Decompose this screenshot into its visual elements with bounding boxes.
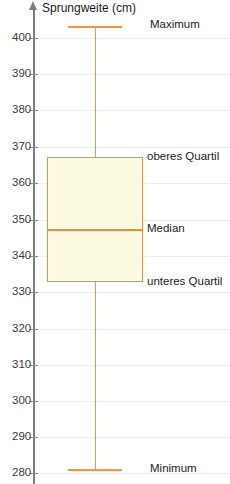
- y-tick-label: 360: [0, 177, 31, 189]
- annotation-median: Median: [147, 223, 185, 235]
- gridline: [33, 329, 230, 330]
- axis-title: Sprungweite (cm): [42, 2, 136, 15]
- median-line: [47, 229, 143, 231]
- y-tick-label: 300: [0, 395, 31, 407]
- upper-whisker-line: [95, 26, 97, 158]
- y-tick-label: 370: [0, 141, 31, 153]
- y-tick-label: 340: [0, 250, 31, 262]
- y-tick-label: 290: [0, 431, 31, 443]
- y-tick-label: 330: [0, 286, 31, 298]
- gridline: [33, 473, 230, 474]
- y-tick-label: 350: [0, 214, 31, 226]
- y-tick-label: 280: [0, 467, 31, 479]
- minimum-cap: [68, 469, 122, 471]
- gridline: [33, 147, 230, 148]
- gridline: [33, 401, 230, 402]
- y-tick-label: 380: [0, 104, 31, 116]
- y-axis-arrow-icon: [29, 1, 37, 10]
- y-tick-label: 320: [0, 323, 31, 335]
- boxplot-chart: Sprungweite (cm) 400 390 380 370 360 350…: [0, 0, 230, 484]
- annotation-upper-quartil: oberes Quartil: [147, 151, 219, 163]
- annotation-maximum: Maximum: [150, 19, 200, 31]
- annotation-minimum: Minimum: [150, 463, 197, 475]
- y-axis-line: [33, 8, 35, 484]
- gridline: [33, 110, 230, 111]
- gridline: [33, 292, 230, 293]
- maximum-cap: [68, 26, 122, 28]
- y-tick-label: 310: [0, 359, 31, 371]
- gridline: [33, 38, 230, 39]
- lower-whisker-line: [95, 281, 97, 470]
- y-tick-label: 400: [0, 32, 31, 44]
- gridline: [33, 437, 230, 438]
- gridline: [33, 365, 230, 366]
- gridline: [33, 74, 230, 75]
- annotation-lower-quartil: unteres Quartil: [147, 276, 222, 288]
- y-tick-label: 390: [0, 68, 31, 80]
- interquartile-box: [47, 157, 143, 282]
